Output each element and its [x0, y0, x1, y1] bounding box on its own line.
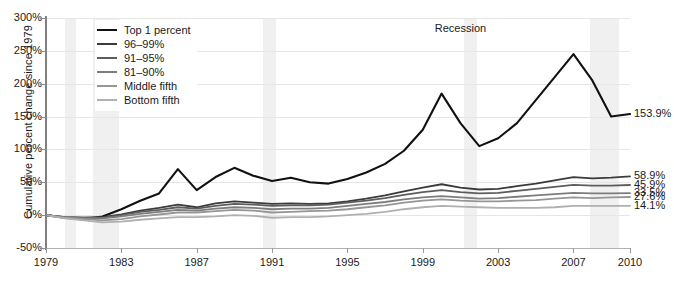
y-axis-tick-mark — [40, 182, 46, 183]
x-axis-tick-label: 1995 — [335, 256, 359, 268]
legend-item[interactable]: Middle fifth — [97, 79, 191, 93]
series-line — [46, 185, 630, 218]
legend-item-label: Middle fifth — [124, 79, 177, 93]
legend-color-swatch — [97, 29, 117, 31]
legend-color-swatch — [97, 71, 117, 73]
y-axis-tick-mark — [40, 215, 46, 216]
y-axis-tick-mark — [40, 51, 46, 52]
x-axis-tick-mark — [197, 248, 198, 253]
y-axis-tick-mark — [40, 84, 46, 85]
y-axis-tick-label: 50% — [20, 175, 42, 187]
legend-color-swatch — [97, 85, 117, 87]
legend-item-label: 91–95% — [124, 51, 164, 65]
series-line — [46, 197, 630, 220]
recession-annotation: Recession — [435, 22, 486, 34]
legend-item-label: Top 1 percent — [124, 23, 191, 37]
x-axis-tick-label: 1991 — [260, 256, 284, 268]
y-axis-tick-label: 250% — [14, 44, 42, 56]
x-axis-tick-label: 2010 — [618, 256, 642, 268]
x-axis-tick-mark — [630, 248, 631, 253]
y-axis-tick-label: 150% — [14, 110, 42, 122]
y-axis-tick-mark — [40, 117, 46, 118]
legend-item-label: 81–90% — [124, 65, 164, 79]
y-axis-tick-label: 300% — [14, 11, 42, 23]
legend-color-swatch — [97, 43, 117, 45]
legend-item[interactable]: 91–95% — [97, 51, 191, 65]
legend-item[interactable]: 96–99% — [97, 37, 191, 51]
x-axis-tick-label: 1983 — [109, 256, 133, 268]
legend-item[interactable]: Bottom fifth — [97, 93, 191, 107]
y-axis-tick-label: -50% — [16, 241, 42, 253]
y-axis-tick-label: 200% — [14, 77, 42, 89]
legend-color-swatch — [97, 57, 117, 59]
series-line — [46, 193, 630, 219]
x-axis-tick-label: 1999 — [411, 256, 435, 268]
y-axis-tick-label: 100% — [14, 142, 42, 154]
x-axis-tick-mark — [423, 248, 424, 253]
x-axis-tick-mark — [46, 248, 47, 253]
chart-container: Cumulative percent change since 1979 300… — [0, 0, 674, 289]
series-end-label: 153.9% — [634, 107, 671, 119]
legend-item-label: Bottom fifth — [124, 93, 180, 107]
x-axis-line — [46, 248, 630, 249]
x-axis-tick-mark — [272, 248, 273, 253]
x-axis-tick-mark — [121, 248, 122, 253]
x-axis-tick-label: 2007 — [561, 256, 585, 268]
x-axis-tick-label: 1987 — [184, 256, 208, 268]
x-axis-tick-mark — [498, 248, 499, 253]
legend-item[interactable]: Top 1 percent — [97, 23, 191, 37]
legend-color-swatch — [97, 99, 117, 101]
x-axis-tick-label: 1979 — [34, 256, 58, 268]
x-axis-tick-mark — [347, 248, 348, 253]
series-line — [46, 176, 630, 217]
x-axis-tick-label: 2003 — [486, 256, 510, 268]
chart-legend: Top 1 percent96–99%91–95%81–90%Middle fi… — [95, 20, 197, 111]
legend-item-label: 96–99% — [124, 37, 164, 51]
y-axis-tick-mark — [40, 18, 46, 19]
series-end-label: 14.1% — [634, 199, 665, 211]
legend-item[interactable]: 81–90% — [97, 65, 191, 79]
x-axis-tick-mark — [573, 248, 574, 253]
y-axis-tick-mark — [40, 149, 46, 150]
